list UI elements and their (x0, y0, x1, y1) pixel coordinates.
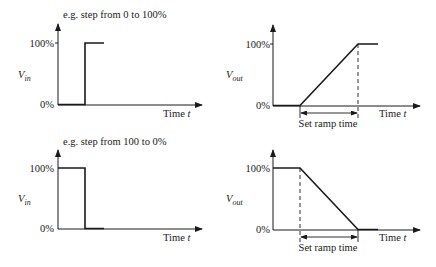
y-label: Vin (18, 193, 31, 207)
x-label: Time t (163, 232, 191, 243)
x-label: Time t (379, 232, 407, 243)
caption: e.g. step from 0 to 100% (63, 9, 167, 20)
y-label: Vout (226, 69, 243, 83)
panel-output-ramp-up: 100% 0% Vout Time t Set ramp time (226, 25, 420, 129)
signal-trace (273, 44, 378, 106)
y-tick-high: 100% (30, 163, 55, 174)
y-tick-low: 0% (256, 224, 270, 235)
panel-input-step-down: e.g. step from 100 to 0% 100% 0% Vin Tim… (18, 136, 202, 243)
ramp-time-diagram: e.g. step from 0 to 100% 100% 0% Vin Tim… (0, 0, 436, 267)
y-tick-low: 0% (40, 99, 54, 110)
y-tick-high: 100% (30, 38, 55, 49)
y-label: Vout (226, 193, 243, 207)
y-tick-low: 0% (256, 100, 270, 111)
signal-trace (58, 43, 104, 105)
y-tick-low: 0% (40, 223, 54, 234)
caption: e.g. step from 100 to 0% (63, 136, 167, 147)
panel-input-step-up: e.g. step from 0 to 100% 100% 0% Vin Tim… (18, 9, 202, 119)
x-label: Time t (379, 108, 407, 119)
signal-trace (58, 168, 104, 229)
y-tick-high: 100% (246, 163, 271, 174)
signal-trace (273, 168, 378, 230)
y-tick-high: 100% (246, 39, 271, 50)
x-label: Time t (163, 108, 191, 119)
ramp-time-label: Set ramp time (299, 118, 358, 129)
y-label: Vin (18, 69, 31, 83)
ramp-time-label: Set ramp time (299, 242, 358, 253)
panel-output-ramp-down: 100% 0% Vout Time t Set ramp time (226, 150, 420, 253)
